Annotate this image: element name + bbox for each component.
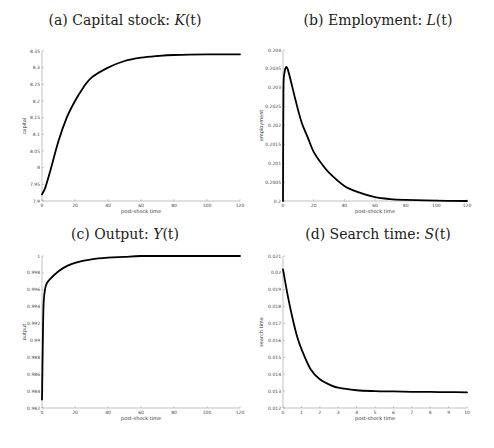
x-tick-label: 80 — [403, 203, 409, 208]
y-tick-label: 0.982 — [27, 406, 40, 411]
y-axis-label: employment — [258, 110, 265, 142]
y-tick-label: 1 — [37, 254, 40, 259]
y-axis-label: capital — [21, 118, 28, 135]
y-tick-label: 0.201 — [268, 161, 281, 166]
x-tick-label: 80 — [171, 203, 177, 208]
x-tick-label: 1 — [300, 410, 303, 415]
y-tick-label: 0.019 — [268, 287, 281, 292]
x-tick-label: 20 — [72, 410, 78, 415]
y-tick-label: 0.012 — [268, 406, 281, 411]
y-tick-label: 0.02 — [271, 270, 281, 275]
x-tick-label: 0 — [282, 203, 285, 208]
x-tick-label: 120 — [236, 203, 245, 208]
x-tick-label: 20 — [311, 203, 317, 208]
x-tick-label: 40 — [105, 203, 111, 208]
x-tick-label: 120 — [236, 410, 245, 415]
y-tick-label: 8 — [37, 165, 40, 170]
x-tick-label: 0 — [41, 410, 44, 415]
y-axis-label: output — [21, 324, 28, 341]
x-tick-label: 10 — [464, 410, 470, 415]
y-tick-label: 7.95 — [30, 182, 40, 187]
y-tick-label: 0.2025 — [265, 104, 281, 109]
x-axis-label: post-shock time — [355, 415, 395, 422]
y-tick-label: 0.013 — [268, 389, 281, 394]
x-tick-label: 0 — [282, 410, 285, 415]
y-tick-label: 0.015 — [268, 355, 281, 360]
y-tick-label: 0.204 — [268, 48, 281, 53]
y-tick-label: 0.992 — [27, 321, 40, 326]
x-tick-label: 100 — [203, 410, 212, 415]
x-tick-label: 100 — [432, 203, 441, 208]
x-axis-label: post-shock time — [121, 208, 161, 215]
y-tick-label: 8.1 — [33, 132, 40, 137]
y-tick-label: 0.202 — [268, 123, 281, 128]
x-tick-label: 7 — [410, 410, 413, 415]
x-tick-label: 120 — [463, 203, 472, 208]
y-tick-label: 0.016 — [268, 338, 281, 343]
y-tick-label: 0.2005 — [265, 180, 281, 185]
y-tick-label: 0.986 — [27, 372, 40, 377]
y-tick-label: 0.018 — [268, 304, 281, 309]
y-tick-label: 0.99 — [30, 338, 40, 343]
x-tick-label: 9 — [447, 410, 450, 415]
x-tick-label: 40 — [341, 203, 347, 208]
y-tick-label: 0.996 — [27, 287, 40, 292]
y-tick-label: 0.017 — [268, 321, 281, 326]
x-axis-label: post-shock time — [121, 415, 161, 422]
x-tick-label: 80 — [171, 410, 177, 415]
series-line — [42, 54, 240, 194]
y-tick-label: 0.998 — [27, 270, 40, 275]
x-tick-label: 8 — [429, 410, 432, 415]
y-axis-label: search time — [258, 317, 264, 347]
series-line — [283, 67, 467, 201]
plot-c: 0204060801001200.9820.9840.9860.9880.990… — [21, 254, 244, 423]
y-tick-label: 0.021 — [268, 254, 281, 259]
y-tick-label: 0.014 — [268, 372, 281, 377]
y-tick-label: 8.2 — [33, 99, 40, 104]
y-tick-label: 7.9 — [33, 199, 40, 204]
x-tick-label: 3 — [337, 410, 340, 415]
x-tick-label: 40 — [105, 410, 111, 415]
series-line — [283, 270, 467, 393]
x-tick-label: 0 — [41, 203, 44, 208]
plot-a: 0204060801001207.97.9588.058.18.158.28.2… — [21, 49, 244, 216]
y-tick-label: 0.994 — [27, 304, 40, 309]
y-tick-label: 0.2015 — [265, 142, 281, 147]
y-tick-label: 0.2035 — [265, 66, 281, 71]
chart-area: 0204060801001207.97.9588.058.18.158.28.2… — [0, 0, 494, 448]
y-tick-label: 0.203 — [268, 85, 281, 90]
plot-d: 0123456789100.0120.0130.0140.0150.0160.0… — [258, 254, 470, 423]
plot-b: 0204060801001200.20.20050.2010.20150.202… — [258, 48, 471, 216]
y-tick-label: 0.988 — [27, 355, 40, 360]
y-tick-label: 8.15 — [30, 115, 40, 120]
y-tick-label: 8.35 — [30, 49, 40, 54]
x-tick-label: 100 — [203, 203, 212, 208]
x-tick-label: 20 — [72, 203, 78, 208]
y-tick-label: 8.25 — [30, 82, 40, 87]
x-tick-label: 2 — [318, 410, 321, 415]
y-tick-label: 0.2 — [274, 199, 281, 204]
y-tick-label: 8.3 — [33, 65, 40, 70]
series-line — [42, 256, 240, 400]
y-tick-label: 8.05 — [30, 149, 40, 154]
x-axis-label: post-shock time — [355, 208, 395, 215]
y-tick-label: 0.984 — [27, 389, 40, 394]
